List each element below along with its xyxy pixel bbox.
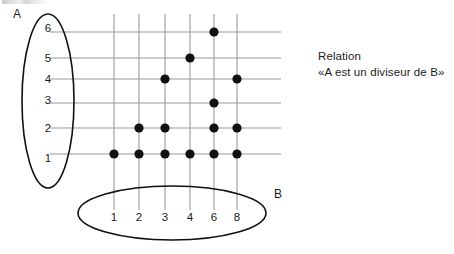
set-a-element-5: 5	[45, 52, 51, 64]
set-a-element-labels: 6 5 4 3 2 1	[45, 22, 52, 164]
relation-point	[134, 149, 143, 158]
set-b-element-8: 8	[234, 211, 240, 223]
relation-point	[209, 27, 218, 36]
divisibility-grid-svg: A B 6 5 4 3 2 1 1 2 3 4 6 8	[0, 0, 454, 254]
relation-point	[209, 98, 218, 107]
set-a-element-2: 2	[45, 122, 51, 134]
relation-point	[160, 123, 169, 132]
caption-line-1: Relation	[318, 48, 444, 64]
relation-point	[185, 149, 194, 158]
set-b-element-4: 4	[187, 211, 194, 223]
set-a-element-1: 1	[45, 152, 51, 164]
relation-diagram: A B 6 5 4 3 2 1 1 2 3 4 6 8 Relation «A …	[0, 0, 454, 254]
relation-point	[160, 149, 169, 158]
set-b-element-2: 2	[136, 211, 142, 223]
set-a-label: A	[13, 7, 21, 21]
relation-point	[185, 53, 194, 62]
relation-point	[160, 74, 169, 83]
relation-points	[109, 27, 241, 158]
set-b-element-labels: 1 2 3 4 6 8	[111, 211, 240, 223]
set-a-element-3: 3	[45, 94, 51, 106]
relation-caption: Relation «A est un diviseur de B»	[318, 48, 444, 80]
relation-point	[232, 74, 241, 83]
caption-line-2: «A est un diviseur de B»	[318, 64, 444, 80]
set-a-element-4: 4	[45, 73, 52, 85]
relation-point	[232, 123, 241, 132]
relation-point	[209, 149, 218, 158]
relation-point	[232, 149, 241, 158]
set-a-element-6: 6	[45, 22, 51, 34]
relation-point	[209, 123, 218, 132]
relation-point	[134, 123, 143, 132]
set-b-element-3: 3	[162, 211, 168, 223]
set-b-element-6: 6	[211, 211, 217, 223]
set-b-element-1: 1	[111, 211, 117, 223]
vertical-gridlines	[114, 14, 237, 210]
set-b-label: B	[274, 187, 282, 201]
relation-point	[109, 149, 118, 158]
